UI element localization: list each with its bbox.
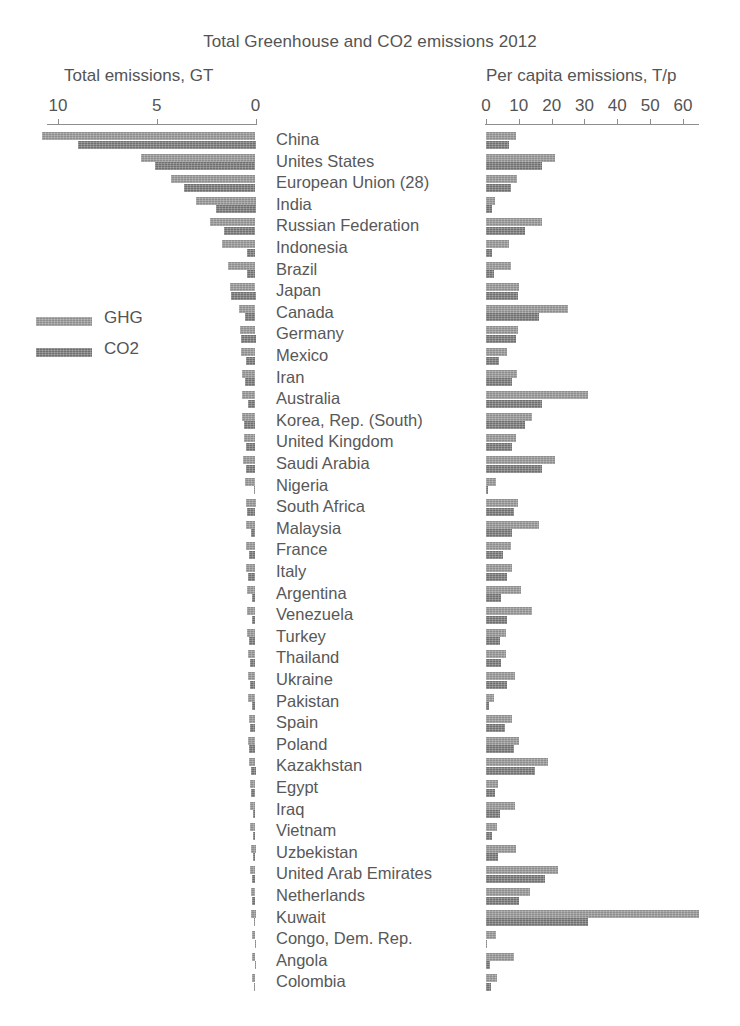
bar-group bbox=[0, 736, 300, 758]
legend-item-ghg: GHG bbox=[36, 311, 196, 337]
axis-tick bbox=[486, 119, 487, 124]
bar-ghg bbox=[242, 413, 255, 421]
category-label: Malaysia bbox=[276, 518, 341, 540]
bar-co2 bbox=[251, 767, 256, 775]
bar-co2 bbox=[253, 832, 256, 840]
bar-co2 bbox=[216, 205, 256, 213]
bar-co2 bbox=[249, 637, 255, 645]
bar-co2 bbox=[231, 292, 256, 300]
bar-co2 bbox=[224, 227, 256, 235]
bar-co2 bbox=[247, 270, 256, 278]
bar-group bbox=[0, 455, 300, 477]
bar-ghg bbox=[171, 175, 256, 183]
category-labels: ChinaUnites StatesEuropean Union (28)Ind… bbox=[276, 131, 496, 1011]
category-label: Spain bbox=[276, 712, 318, 734]
bar-co2 bbox=[252, 897, 255, 905]
category-label: Indonesia bbox=[276, 237, 348, 259]
bar-co2 bbox=[249, 745, 255, 753]
axis-tick bbox=[584, 119, 585, 124]
bar-co2 bbox=[248, 400, 256, 408]
category-label: Angola bbox=[276, 950, 327, 972]
bar-ghg bbox=[141, 154, 256, 162]
category-label: Russian Federation bbox=[276, 215, 419, 237]
bar-co2 bbox=[251, 529, 255, 537]
bar-co2 bbox=[246, 443, 255, 451]
category-label: Vietnam bbox=[276, 820, 336, 842]
bar-ghg bbox=[248, 737, 256, 745]
category-label: Ukraine bbox=[276, 669, 333, 691]
category-label: China bbox=[276, 129, 319, 151]
bar-ghg bbox=[252, 953, 255, 961]
bar-co2 bbox=[245, 378, 256, 386]
bar-co2 bbox=[253, 810, 256, 818]
bar-co2 bbox=[255, 940, 256, 948]
bar-ghg bbox=[230, 283, 256, 291]
category-label: Venezuela bbox=[276, 604, 353, 626]
bar-co2 bbox=[252, 702, 255, 710]
category-label: Canada bbox=[276, 302, 334, 324]
bar-group bbox=[0, 196, 300, 218]
bar-co2 bbox=[250, 724, 255, 732]
bar-co2 bbox=[246, 357, 255, 365]
legend-label: CO2 bbox=[104, 339, 139, 359]
category-label: Kuwait bbox=[276, 907, 326, 929]
category-label: United Kingdom bbox=[276, 431, 393, 453]
bar-ghg bbox=[486, 391, 588, 399]
bar-group bbox=[0, 779, 300, 801]
category-label: Turkey bbox=[276, 626, 326, 648]
category-label: Kazakhstan bbox=[276, 755, 362, 777]
category-label: Mexico bbox=[276, 345, 328, 367]
bar-co2 bbox=[250, 681, 256, 689]
bar-group bbox=[0, 174, 300, 196]
bar-ghg bbox=[486, 866, 558, 874]
bar-ghg bbox=[486, 456, 555, 464]
category-label: Italy bbox=[276, 561, 306, 583]
bar-ghg bbox=[42, 132, 255, 140]
category-label: United Arab Emirates bbox=[276, 863, 432, 885]
category-label: Korea, Rep. (South) bbox=[276, 410, 423, 432]
bar-group bbox=[0, 973, 300, 995]
bar-ghg bbox=[251, 888, 255, 896]
category-label: India bbox=[276, 194, 312, 216]
bar-group bbox=[0, 865, 300, 887]
chart-root: Total Greenhouse and CO2 emissions 2012 … bbox=[0, 0, 740, 1026]
bar-group bbox=[0, 390, 300, 412]
category-label: Saudi Arabia bbox=[276, 453, 370, 475]
bar-group bbox=[0, 239, 300, 261]
bar-group bbox=[0, 217, 300, 239]
bar-ghg bbox=[247, 629, 255, 637]
bar-co2 bbox=[245, 313, 256, 321]
category-label: Uzbekistan bbox=[276, 842, 358, 864]
category-label: Iran bbox=[276, 367, 304, 389]
bar-co2 bbox=[246, 465, 255, 473]
axis-tick bbox=[519, 119, 520, 124]
bar-ghg bbox=[250, 866, 255, 874]
axis-line bbox=[485, 124, 699, 125]
bar-group bbox=[0, 498, 300, 520]
category-label: Poland bbox=[276, 734, 327, 756]
bar-ghg bbox=[486, 154, 555, 162]
bar-group bbox=[0, 606, 300, 628]
axis-tick bbox=[617, 119, 618, 124]
bar-co2 bbox=[254, 983, 255, 991]
bar-ghg bbox=[250, 780, 256, 788]
bar-ghg bbox=[486, 910, 699, 918]
bar-group bbox=[0, 563, 300, 585]
bar-group bbox=[0, 628, 300, 650]
bar-ghg bbox=[239, 305, 256, 313]
category-label: Egypt bbox=[276, 777, 318, 799]
bar-group bbox=[0, 282, 300, 304]
bar-ghg bbox=[246, 564, 255, 572]
bar-ghg bbox=[250, 802, 256, 810]
bar-ghg bbox=[240, 326, 255, 334]
category-label: Colombia bbox=[276, 971, 346, 993]
category-label: Germany bbox=[276, 323, 344, 345]
bar-ghg bbox=[247, 607, 255, 615]
bar-group bbox=[0, 131, 300, 153]
bar-group bbox=[0, 930, 300, 952]
axis-tick bbox=[683, 119, 684, 124]
bar-co2 bbox=[78, 141, 256, 149]
bar-group bbox=[0, 649, 300, 671]
bar-group bbox=[0, 261, 300, 283]
bar-ghg bbox=[241, 348, 255, 356]
